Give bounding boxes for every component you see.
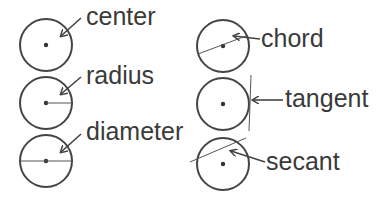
center-label: center [86, 2, 155, 30]
secant-figure: secant [190, 138, 340, 190]
secant-line [190, 138, 246, 162]
diameter-figure: diameter [20, 117, 183, 187]
tangent-label: tangent [285, 84, 368, 112]
chord-figure: chord [197, 20, 324, 72]
chord-label: chord [261, 24, 324, 52]
tangent-center-dot [221, 102, 225, 106]
chord-line [198, 36, 246, 54]
center-dot [44, 43, 48, 47]
diameter-label: diameter [86, 117, 183, 145]
secant-label: secant [266, 147, 340, 175]
secant-center-dot [221, 162, 225, 166]
radius-label: radius [86, 61, 154, 89]
tangent-figure: tangent [197, 75, 368, 131]
circle-parts-diagram: center radius diameter chord tangent [0, 0, 392, 199]
